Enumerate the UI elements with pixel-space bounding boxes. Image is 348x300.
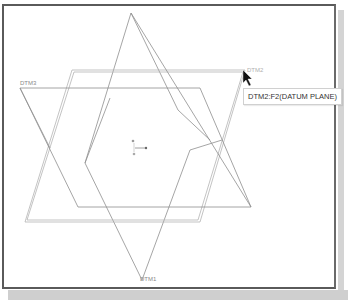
label-dtm2: DTM2 bbox=[247, 67, 263, 73]
datum-plane-dtm2[interactable] bbox=[25, 70, 245, 222]
datum-plane-dtm3[interactable] bbox=[20, 13, 251, 207]
datum-plane-dtm1[interactable] bbox=[85, 13, 222, 280]
tooltip-datum-plane: DTM2:F2(DATUM PLANE) bbox=[243, 88, 342, 105]
datum-planes-canvas[interactable] bbox=[0, 0, 348, 300]
label-dtm3: DTM3 bbox=[20, 80, 36, 86]
label-dtm1: DTM1 bbox=[140, 276, 156, 282]
coordinate-system-icon bbox=[132, 140, 148, 156]
